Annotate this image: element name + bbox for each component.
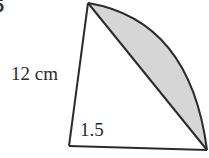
radius-bottom xyxy=(69,146,207,150)
sector-diagram: 5 12 cm 1.5 xyxy=(0,0,209,158)
chord-line xyxy=(88,3,207,150)
angle-label: 1.5 xyxy=(80,119,104,140)
question-number: 5 xyxy=(0,0,4,16)
side-length-label: 12 cm xyxy=(11,63,58,84)
